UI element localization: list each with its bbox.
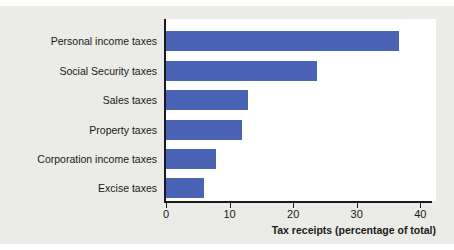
x-tick-label: 20 [287, 208, 299, 220]
x-tick-label: 0 [163, 208, 169, 220]
bar-corporation-income-taxes [166, 149, 216, 169]
x-tick-label: 40 [414, 208, 426, 220]
bar-excise-taxes [166, 178, 204, 198]
category-label: Sales taxes [103, 94, 157, 106]
x-axis-title: Tax receipts (percentage of total) [272, 224, 436, 236]
bar-personal-income-taxes [166, 31, 399, 51]
x-axis-line [164, 201, 432, 203]
bar-property-taxes [166, 120, 242, 140]
chart-figure: Personal income taxes Social Security ta… [0, 0, 454, 250]
bar-sales-taxes [166, 90, 248, 110]
category-label: Personal income taxes [51, 35, 157, 47]
bar-social-security-taxes [166, 61, 317, 81]
category-label: Property taxes [89, 124, 157, 136]
category-label: Corporation income taxes [37, 153, 157, 165]
category-label: Social Security taxes [60, 65, 157, 77]
x-tick-label: 10 [223, 208, 235, 220]
x-tick-label: 30 [351, 208, 363, 220]
category-label: Excise taxes [98, 182, 157, 194]
